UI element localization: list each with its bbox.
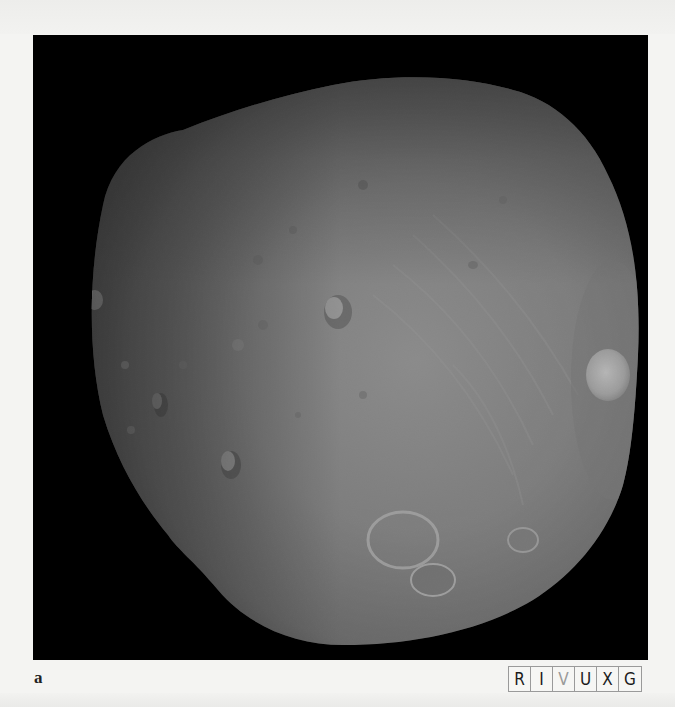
- moon-photograph: [33, 35, 648, 660]
- band-gamma: G: [619, 667, 641, 691]
- phobos-image: [33, 35, 648, 660]
- panel-label: a: [34, 668, 43, 688]
- band-infrared: I: [531, 667, 553, 691]
- moon-surface: [33, 35, 648, 660]
- band-xray: X: [597, 667, 619, 691]
- band-ultraviolet: U: [575, 667, 597, 691]
- wavelength-band-indicator: R I V U X G: [508, 666, 642, 692]
- page-bleed-top: [0, 0, 675, 34]
- band-radio: R: [509, 667, 531, 691]
- page-bleed-bottom: [0, 693, 675, 707]
- band-visible: V: [553, 667, 575, 691]
